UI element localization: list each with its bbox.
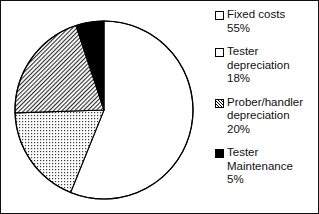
legend-item-label: Fixed costs (227, 8, 285, 22)
empty-square-swatch-icon (215, 11, 224, 20)
legend-item-value: 55% (215, 22, 315, 36)
legend-item-label-cont: depreciation (215, 59, 315, 73)
legend-item-value: 5% (215, 173, 315, 187)
legend-item-prober-handler-depreciation: Prober/handler depreciation 20% (215, 96, 315, 137)
legend: Fixed costs 55% Tester depreciation 18% … (215, 8, 315, 197)
pie-svg (13, 19, 195, 201)
legend-item-label-cont: Maintenance (215, 160, 315, 174)
pie-chart-plot (13, 19, 195, 201)
legend-item-tester-maintenance: Tester Maintenance 5% (215, 146, 315, 187)
legend-item-label-cont: depreciation (215, 109, 315, 123)
dotted-square-swatch-icon (215, 48, 224, 57)
legend-item-label: Tester (227, 45, 258, 59)
legend-item-value: 20% (215, 123, 315, 137)
legend-item-tester-depreciation: Tester depreciation 18% (215, 45, 315, 86)
legend-item-fixed-costs: Fixed costs 55% (215, 8, 315, 35)
legend-item-label: Prober/handler (227, 96, 303, 110)
legend-item-value: 18% (215, 72, 315, 86)
legend-item-label: Tester (227, 146, 258, 160)
pie-chart-figure: Fixed costs 55% Tester depreciation 18% … (0, 0, 319, 214)
hatched-square-swatch-icon (215, 99, 224, 108)
solid-black-square-swatch-icon (215, 149, 224, 158)
